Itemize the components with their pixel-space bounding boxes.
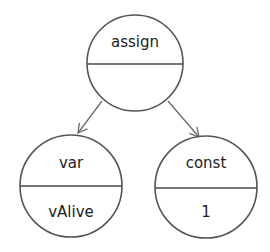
node-var-bottom-label: vAlive: [48, 203, 94, 221]
node-const: const 1: [155, 136, 257, 238]
node-const-circle: [155, 136, 257, 238]
edge-assign-to-const: [168, 101, 199, 137]
node-assign: assign: [87, 15, 183, 111]
node-const-bottom-label: 1: [201, 203, 211, 221]
node-assign-top-label: assign: [111, 33, 159, 51]
node-var: var vAlive: [20, 135, 122, 237]
node-var-top-label: var: [59, 154, 84, 172]
edge-assign-to-var: [78, 101, 102, 133]
ast-diagram: assign var vAlive const 1: [0, 0, 270, 252]
node-assign-circle: [87, 15, 183, 111]
node-const-top-label: const: [186, 154, 227, 172]
